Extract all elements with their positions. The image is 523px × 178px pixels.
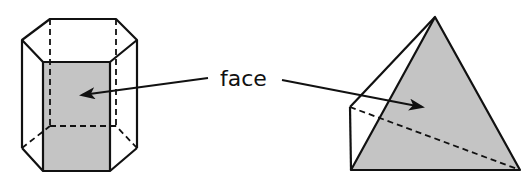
face-label: face (220, 66, 267, 91)
hexagonal-prism (22, 19, 137, 171)
prism-face-highlight (43, 62, 110, 171)
triangular-pyramid (350, 17, 520, 170)
face-diagram: face (0, 0, 523, 178)
pyramid-face-highlight (351, 17, 520, 170)
